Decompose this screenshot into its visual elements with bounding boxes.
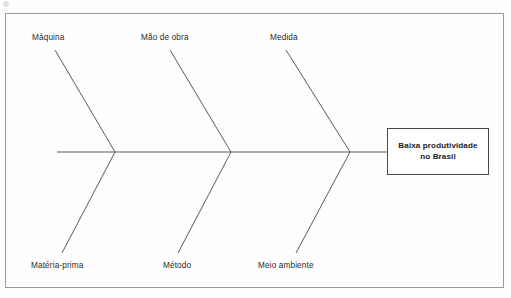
effect-line-2: no Brasil [420,152,456,161]
bone-label-maquina: Máquina [32,33,64,42]
bone-line-materia-prima [62,152,115,253]
bone-label-materia-prima: Matéria-prima [31,261,83,270]
bone-line-mao-de-obra [170,50,231,152]
bone-label-mao-de-obra: Mão de obra [141,33,189,42]
bone-label-meio-ambiente: Meio ambiente [258,261,314,270]
bone-line-medida [286,50,350,152]
bone-line-meio-ambiente [296,152,350,253]
effect-line-1: Baixa produtividade [398,141,477,150]
bone-label-medida: Medida [270,33,298,42]
bone-line-maquina [55,50,115,152]
fishbone-diagram-page: Máquina Mão de obra Medida Matéria-prima… [0,0,511,298]
effect-box: Baixa produtividade no Brasil [387,128,489,175]
bone-line-metodo [178,152,231,253]
bone-label-metodo: Método [163,261,191,270]
effect-box-text: Baixa produtividade no Brasil [398,141,477,163]
